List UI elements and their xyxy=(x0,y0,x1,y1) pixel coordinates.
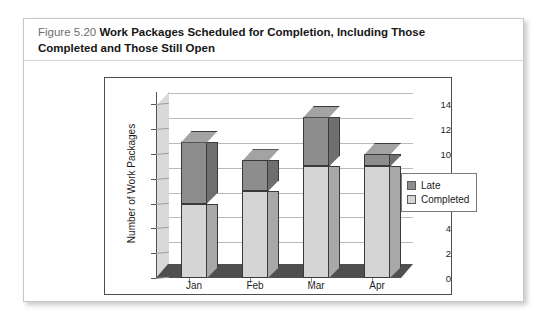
legend-swatch-completed xyxy=(407,195,416,204)
legend-item-late: Late xyxy=(407,178,469,192)
bar-face-front xyxy=(242,160,268,191)
y-axis-label: 2 xyxy=(431,248,451,259)
legend-label-late: Late xyxy=(421,180,440,191)
bar-face-front xyxy=(303,166,329,278)
bar-face-front xyxy=(364,166,390,278)
y-axis-label: 12 xyxy=(431,124,451,135)
bar-jan xyxy=(181,78,207,278)
bar-apr xyxy=(364,78,390,278)
y-axis-tick xyxy=(151,154,156,155)
screenshot-root: Figure 5.20 Work Packages Scheduled for … xyxy=(0,0,549,326)
bar-face-front xyxy=(181,142,207,204)
y-axis-label: 14 xyxy=(431,99,451,110)
bar-segment-completed xyxy=(364,166,390,278)
y-axis-label: 10 xyxy=(431,149,451,160)
figure-card: Figure 5.20 Work Packages Scheduled for … xyxy=(23,18,524,302)
bar-segment-completed xyxy=(242,191,268,278)
legend-label-completed: Completed xyxy=(421,194,469,205)
bar-segment-completed xyxy=(303,166,329,278)
figure-caption-line-2: Completed and Those Still Open xyxy=(38,41,509,57)
figure-title-part-2: Completed and Those Still Open xyxy=(38,42,215,54)
bar-face-front xyxy=(364,154,390,166)
bar-segment-late xyxy=(364,154,390,166)
y-axis-title: Number of Work Packages xyxy=(126,104,137,264)
figure-number: Figure 5.20 xyxy=(38,26,96,38)
y-axis-tick xyxy=(151,278,156,279)
chart-legend: Late Completed xyxy=(401,173,477,212)
bar-face-side xyxy=(390,166,401,278)
y-axis-label: 4 xyxy=(431,223,451,234)
y-axis-tick xyxy=(151,253,156,254)
wall-tick xyxy=(156,277,169,279)
bar-mar xyxy=(303,78,329,278)
y-axis-tick xyxy=(151,228,156,229)
y-axis-tick xyxy=(151,104,156,105)
bar-face-front xyxy=(181,204,207,278)
legend-item-completed: Completed xyxy=(407,192,469,206)
y-axis-tick xyxy=(151,179,156,180)
bar-segment-late xyxy=(181,142,207,204)
bar-face-side xyxy=(268,191,279,278)
figure-title-part-1: Work Packages Scheduled for Completion, … xyxy=(99,26,425,38)
bar-segment-completed xyxy=(181,204,207,278)
y-axis-tick xyxy=(151,129,156,130)
bar-face-side xyxy=(329,166,340,278)
x-axis-label: Jan xyxy=(172,280,216,291)
bar-face-front xyxy=(303,117,329,167)
bar-face-front xyxy=(242,191,268,278)
chart-left-wall xyxy=(156,92,169,278)
x-axis-label: Apr xyxy=(355,280,399,291)
y-axis-label: 0 xyxy=(431,273,451,284)
bar-feb xyxy=(242,78,268,278)
chart-plot-area: Number of Work Packages 02468101214JanFe… xyxy=(105,78,451,294)
bar-segment-late xyxy=(303,117,329,167)
y-axis-tick xyxy=(151,204,156,205)
x-axis-label: Feb xyxy=(233,280,277,291)
figure-header: Figure 5.20 Work Packages Scheduled for … xyxy=(24,19,523,61)
chart-frame: Number of Work Packages 02468101214JanFe… xyxy=(104,77,452,295)
bar-face-side xyxy=(207,204,218,278)
legend-swatch-late xyxy=(407,181,416,190)
figure-caption-line-1: Figure 5.20 Work Packages Scheduled for … xyxy=(38,25,509,41)
bar-segment-late xyxy=(242,160,268,191)
x-axis-label: Mar xyxy=(294,280,338,291)
y-axis-line xyxy=(156,92,157,278)
